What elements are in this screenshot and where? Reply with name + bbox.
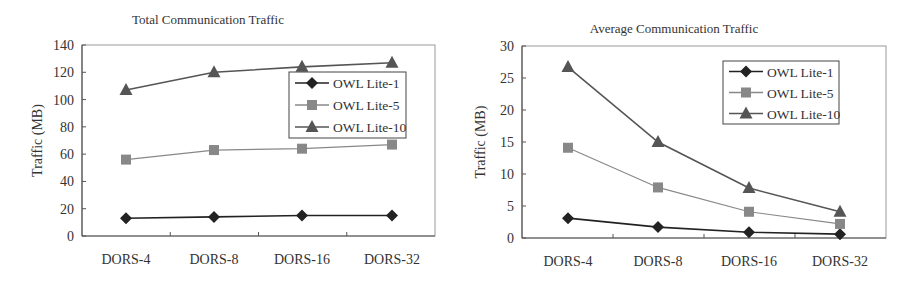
x-tick-label: DORS-16 bbox=[721, 254, 777, 269]
series-line bbox=[126, 216, 392, 219]
data-point-square-marker bbox=[653, 182, 663, 192]
x-tick-label: DORS-32 bbox=[812, 254, 868, 269]
series-owl-lite-1 bbox=[120, 210, 398, 225]
y-tick-label: 120 bbox=[53, 65, 74, 80]
data-point-diamond-marker bbox=[562, 212, 574, 224]
legend-label: OWL Lite-1 bbox=[333, 76, 400, 91]
data-point-diamond-marker bbox=[208, 211, 220, 223]
legend: OWL Lite-1OWL Lite-5OWL Lite-10 bbox=[289, 72, 407, 138]
data-point-diamond-marker bbox=[652, 221, 664, 233]
x-tick-label: DORS-4 bbox=[101, 252, 150, 267]
data-point-square-marker bbox=[121, 155, 131, 165]
legend-label: OWL Lite-1 bbox=[767, 65, 834, 80]
data-point-square-marker bbox=[297, 144, 307, 154]
y-tick-label: 140 bbox=[53, 38, 74, 53]
legend-label: OWL Lite-5 bbox=[333, 98, 400, 113]
y-tick-label: 0 bbox=[507, 231, 514, 246]
charts-canvas: Total Communication Traffic0204060801001… bbox=[0, 0, 917, 284]
legend: OWL Lite-1OWL Lite-5OWL Lite-10 bbox=[723, 61, 841, 124]
y-tick-label: 10 bbox=[500, 167, 514, 182]
y-tick-label: 100 bbox=[53, 93, 74, 108]
y-tick-label: 5 bbox=[507, 199, 514, 214]
y-tick-label: 40 bbox=[60, 174, 74, 189]
data-point-diamond-marker bbox=[743, 226, 755, 238]
y-tick-label: 20 bbox=[500, 103, 514, 118]
x-tick-label: DORS-8 bbox=[189, 252, 238, 267]
series-owl-lite-5 bbox=[563, 143, 845, 229]
legend-square-marker bbox=[307, 100, 317, 110]
data-point-diamond-marker bbox=[120, 212, 132, 224]
data-point-triangle-marker bbox=[743, 181, 756, 193]
y-tick-label: 60 bbox=[60, 147, 74, 162]
data-point-triangle-marker bbox=[386, 56, 399, 68]
data-point-square-marker bbox=[563, 143, 573, 153]
legend-label: OWL Lite-5 bbox=[767, 86, 834, 101]
y-tick-label: 20 bbox=[60, 202, 74, 217]
legend-square-marker bbox=[741, 88, 751, 98]
series-line bbox=[568, 148, 840, 224]
y-axis-label: Traffic (MB) bbox=[30, 104, 46, 177]
legend-label: OWL Lite-10 bbox=[333, 120, 407, 135]
x-tick-label: DORS-4 bbox=[543, 254, 592, 269]
y-tick-label: 15 bbox=[500, 135, 514, 150]
y-tick-label: 25 bbox=[500, 71, 514, 86]
legend-label: OWL Lite-10 bbox=[767, 107, 841, 122]
series-line bbox=[568, 218, 840, 234]
data-point-diamond-marker bbox=[296, 210, 308, 222]
series-line bbox=[126, 145, 392, 160]
x-tick-label: DORS-32 bbox=[364, 252, 420, 267]
x-tick-label: DORS-8 bbox=[633, 254, 682, 269]
data-point-diamond-marker bbox=[386, 210, 398, 222]
data-point-square-marker bbox=[387, 140, 397, 150]
data-point-triangle-marker bbox=[562, 60, 575, 72]
y-tick-label: 0 bbox=[67, 229, 74, 244]
y-tick-label: 30 bbox=[500, 39, 514, 54]
data-point-square-marker bbox=[835, 219, 845, 229]
chart-title: Total Communication Traffic bbox=[132, 12, 284, 27]
y-tick-label: 80 bbox=[60, 120, 74, 135]
data-point-square-marker bbox=[744, 207, 754, 217]
chart-average-traffic: Average Communication Traffic05101520253… bbox=[473, 21, 886, 269]
chart-title: Average Communication Traffic bbox=[590, 21, 759, 36]
data-point-square-marker bbox=[209, 145, 219, 155]
x-tick-label: DORS-16 bbox=[274, 252, 330, 267]
series-owl-lite-5 bbox=[121, 140, 397, 165]
chart-total-traffic: Total Communication Traffic0204060801001… bbox=[30, 12, 435, 267]
data-point-triangle-marker bbox=[652, 135, 665, 147]
y-axis-label: Traffic (MB) bbox=[473, 105, 489, 178]
